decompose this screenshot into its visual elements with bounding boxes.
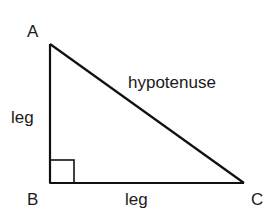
vertex-a-label: A — [27, 22, 39, 41]
hypotenuse-line — [50, 44, 244, 183]
right-triangle-diagram: A B C leg leg hypotenuse — [0, 0, 277, 221]
vertex-c-label: C — [251, 190, 263, 209]
leg-horizontal-label: leg — [125, 190, 148, 209]
right-angle-marker — [50, 160, 74, 183]
leg-vertical-label: leg — [11, 108, 34, 127]
vertex-b-label: B — [27, 190, 38, 209]
hypotenuse-label: hypotenuse — [128, 73, 216, 92]
